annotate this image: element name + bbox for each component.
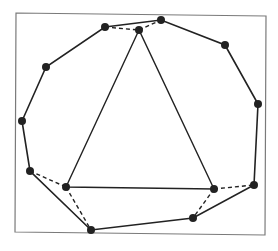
vertex-dot bbox=[18, 117, 26, 125]
dashed-edge bbox=[193, 189, 214, 218]
vertex-dot bbox=[26, 167, 34, 175]
dashed-edge bbox=[30, 171, 66, 187]
dashed-connectors bbox=[30, 20, 254, 230]
dashed-edge bbox=[105, 27, 139, 30]
vertex-dot bbox=[250, 181, 258, 189]
inner-triangle bbox=[66, 30, 214, 189]
vertex-dot bbox=[221, 41, 229, 49]
vertex-dot bbox=[189, 214, 197, 222]
vertex-dot bbox=[101, 23, 109, 31]
vertex-dot bbox=[210, 185, 218, 193]
vertex-dot bbox=[42, 63, 50, 71]
polygon-diagram bbox=[0, 0, 278, 251]
vertex-dot bbox=[87, 226, 95, 234]
vertex-dot bbox=[254, 100, 262, 108]
outer-polygon bbox=[22, 20, 258, 230]
vertex-dot bbox=[135, 26, 143, 34]
vertex-dot bbox=[62, 183, 70, 191]
vertex-dot bbox=[157, 16, 165, 24]
